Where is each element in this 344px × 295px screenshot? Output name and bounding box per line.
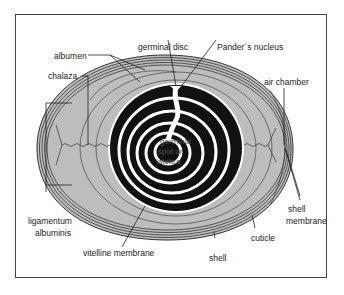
label-center-3: latebra xyxy=(156,157,180,166)
label-shell-membrane-1: shell xyxy=(288,204,305,214)
label-ligamentum-2: albuminis xyxy=(35,228,71,238)
label-vitelline-membrane: vitelline membrane xyxy=(83,248,154,258)
label-chalaza: chalaza xyxy=(48,71,77,81)
label-albumen: albumen xyxy=(54,51,87,61)
label-shell: shell xyxy=(209,253,226,263)
label-air-chamber: air chamber xyxy=(264,77,309,87)
label-center-1: germinal xyxy=(160,137,191,146)
label-shell-membrane-2: membrane xyxy=(286,216,327,226)
label-center-2: spot or xyxy=(158,147,182,156)
label-cuticle: cuticle xyxy=(251,233,275,243)
label-ligamentum-1: ligamentum xyxy=(28,216,72,226)
label-germinal-disc: germinal disc xyxy=(138,42,188,52)
label-panders-nucleus: Pander´s nucleus xyxy=(217,42,283,52)
